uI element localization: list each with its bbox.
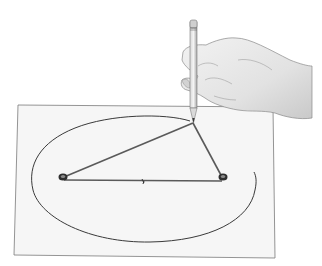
ellipse-drawing-illustration (0, 0, 322, 266)
pin-focus-2 (219, 174, 228, 181)
pencil (190, 20, 197, 123)
paper-sheet (14, 105, 275, 258)
pin-focus-1 (59, 174, 68, 181)
pencil-eraser (190, 20, 197, 28)
